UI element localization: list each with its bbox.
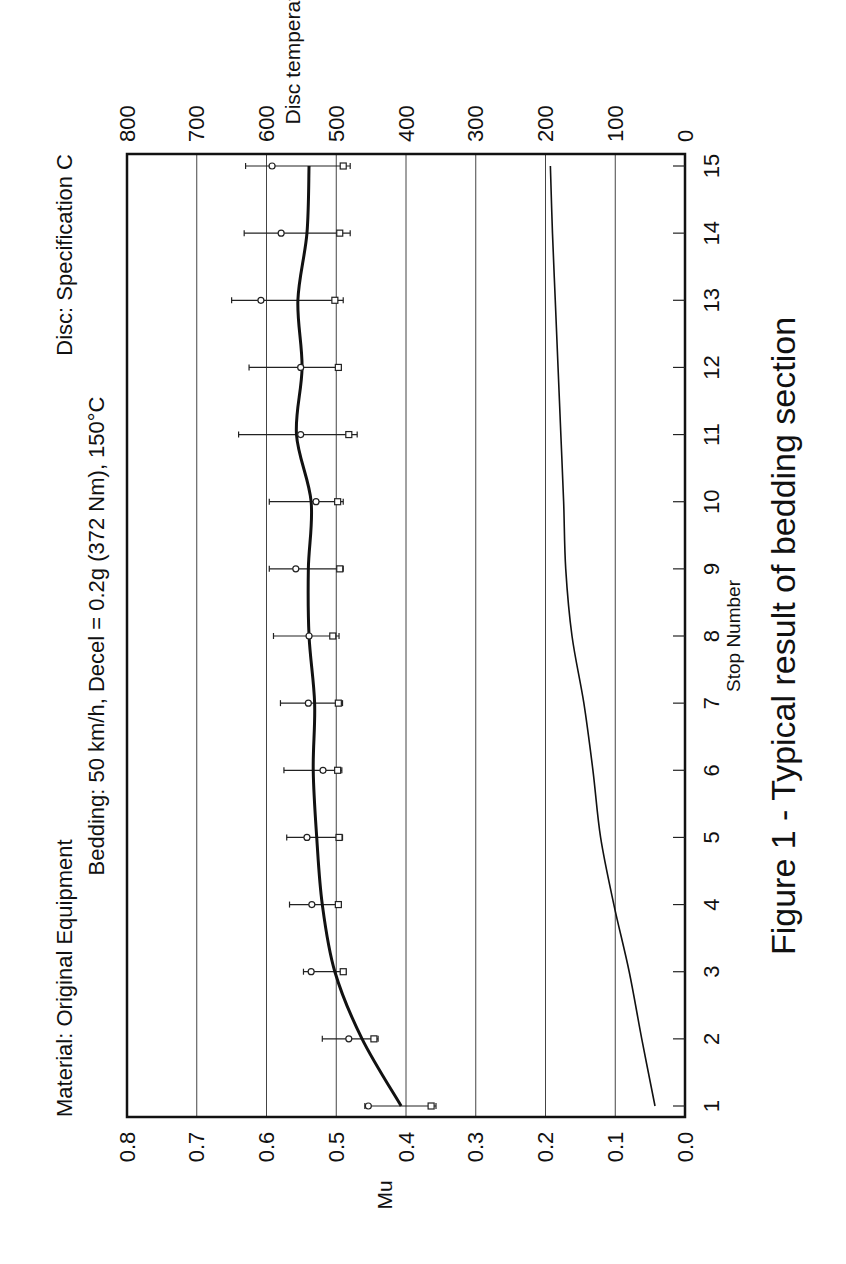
x-tick-label: 8 — [699, 630, 724, 642]
y2-tick-label: 100 — [603, 105, 628, 142]
y2-axis-title: Disc temperature [°C] — [281, 0, 304, 124]
y2-tick-label: 800 — [115, 105, 140, 142]
x-tick-label: 15 — [699, 154, 724, 178]
x-tick-label: 3 — [699, 966, 724, 978]
circle-marker — [365, 1103, 371, 1109]
header-disc: Disc: Specification C — [52, 154, 77, 356]
x-tick-label: 11 — [699, 423, 724, 446]
y-tick-label: 0.8 — [115, 1132, 140, 1163]
x-tick-label: 7 — [699, 697, 724, 709]
square-marker — [335, 902, 341, 908]
square-marker — [371, 1036, 377, 1042]
square-marker — [337, 566, 343, 572]
y-tick-label: 0.0 — [673, 1132, 698, 1163]
header-material: Material: Original Equipment — [52, 839, 77, 1117]
square-marker — [335, 767, 341, 773]
x-tick-label: 13 — [699, 288, 724, 312]
circle-marker — [293, 566, 299, 572]
square-marker — [340, 969, 346, 975]
figure-caption: Figure 1 - Typical result of bedding sec… — [764, 317, 802, 955]
y2-tick-label: 200 — [533, 105, 558, 142]
square-marker — [335, 499, 341, 505]
y2-axis-ticks: 0100200300400500600700800 — [115, 105, 698, 142]
x-axis-ticks: 123456789101112131415 — [673, 154, 724, 1112]
square-marker — [335, 364, 341, 370]
square-marker — [428, 1103, 434, 1109]
x-tick-label: 14 — [699, 221, 724, 245]
circle-marker — [304, 834, 310, 840]
square-marker — [332, 297, 338, 303]
y2-tick-label: 700 — [184, 105, 209, 142]
x-axis-title: Stop Number — [723, 579, 744, 692]
square-marker — [340, 163, 346, 169]
y-tick-label: 0.3 — [463, 1132, 488, 1163]
square-marker — [336, 834, 342, 840]
y-tick-label: 0.6 — [254, 1132, 279, 1163]
square-marker — [335, 700, 341, 706]
circle-marker — [346, 1036, 352, 1042]
circle-marker — [309, 902, 315, 908]
square-marker — [346, 432, 352, 438]
circle-marker — [298, 432, 304, 438]
circle-marker — [305, 700, 311, 706]
y-tick-label: 0.4 — [394, 1132, 419, 1163]
x-tick-label: 12 — [699, 355, 724, 379]
x-tick-label: 4 — [699, 898, 724, 910]
circle-marker — [298, 364, 304, 370]
x-tick-label: 10 — [699, 489, 724, 513]
circle-marker — [313, 499, 319, 505]
disc-temperature-line — [550, 166, 655, 1106]
y-axis-ticks: 0.00.10.20.30.40.50.60.70.8 — [115, 1132, 698, 1163]
x-tick-label: 1 — [699, 1100, 724, 1112]
circle-marker — [258, 297, 264, 303]
y2-tick-label: 500 — [324, 105, 349, 142]
y-axis-title: Mu — [373, 1180, 396, 1209]
subheader-bedding: Bedding: 50 km/h, Decel = 0.2g (372 Nm),… — [84, 396, 109, 875]
square-marker — [337, 230, 343, 236]
square-marker — [330, 633, 336, 639]
y-tick-label: 0.5 — [324, 1132, 349, 1163]
circle-marker — [320, 767, 326, 773]
x-tick-label: 9 — [699, 563, 724, 575]
circle-marker — [308, 969, 314, 975]
y2-tick-label: 300 — [463, 105, 488, 142]
circle-marker — [269, 163, 275, 169]
chart-figure: Material: Original Equipment Disc: Speci… — [0, 0, 846, 1264]
y-tick-label: 0.7 — [184, 1132, 209, 1163]
circle-marker — [278, 230, 284, 236]
x-tick-label: 5 — [699, 831, 724, 843]
circle-marker — [306, 633, 312, 639]
y-tick-label: 0.2 — [533, 1132, 558, 1163]
y2-tick-label: 600 — [254, 105, 279, 142]
plot-data — [232, 163, 655, 1109]
x-tick-label: 6 — [699, 764, 724, 776]
y-tick-label: 0.1 — [603, 1132, 628, 1163]
y2-tick-label: 0 — [673, 130, 698, 142]
y2-tick-label: 400 — [394, 105, 419, 142]
x-tick-label: 2 — [699, 1033, 724, 1045]
